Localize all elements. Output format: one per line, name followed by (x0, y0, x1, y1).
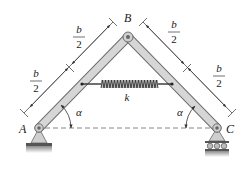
dimension-label-left-upper: b 2 (73, 23, 85, 50)
pin-b (123, 32, 133, 42)
svg-text:b: b (171, 18, 177, 30)
dimension-label-right-lower: b 2 (213, 62, 225, 89)
dimension-label-left-lower: b 2 (30, 67, 42, 94)
svg-text:2: 2 (171, 33, 177, 45)
svg-text:b: b (216, 62, 222, 74)
label-point-b: B (124, 11, 132, 25)
linkage-diagram: k A B C α α b (0, 0, 246, 169)
angle-label-c: α (177, 106, 183, 118)
dimension-label-right-upper: b 2 (168, 18, 180, 45)
svg-text:2: 2 (76, 38, 82, 50)
spring (80, 80, 173, 88)
svg-text:2: 2 (33, 82, 39, 94)
svg-text:b: b (33, 67, 39, 79)
pin-c (213, 124, 221, 132)
angle-label-a: α (76, 106, 82, 118)
label-point-c: C (226, 122, 235, 136)
svg-text:b: b (76, 23, 82, 35)
svg-text:2: 2 (216, 77, 222, 89)
label-point-a: A (18, 122, 27, 136)
spring-label-k: k (125, 91, 131, 103)
pin-a (35, 124, 43, 132)
